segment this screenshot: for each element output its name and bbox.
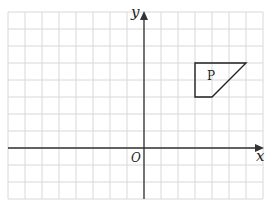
shape-p-label: P bbox=[207, 69, 215, 83]
x-axis-label: x bbox=[256, 147, 265, 165]
axes bbox=[8, 11, 264, 199]
origin-label: O bbox=[131, 151, 141, 165]
grid-lines bbox=[8, 12, 263, 199]
coordinate-grid: y x O P bbox=[0, 0, 268, 207]
y-axis-label: y bbox=[130, 3, 140, 21]
